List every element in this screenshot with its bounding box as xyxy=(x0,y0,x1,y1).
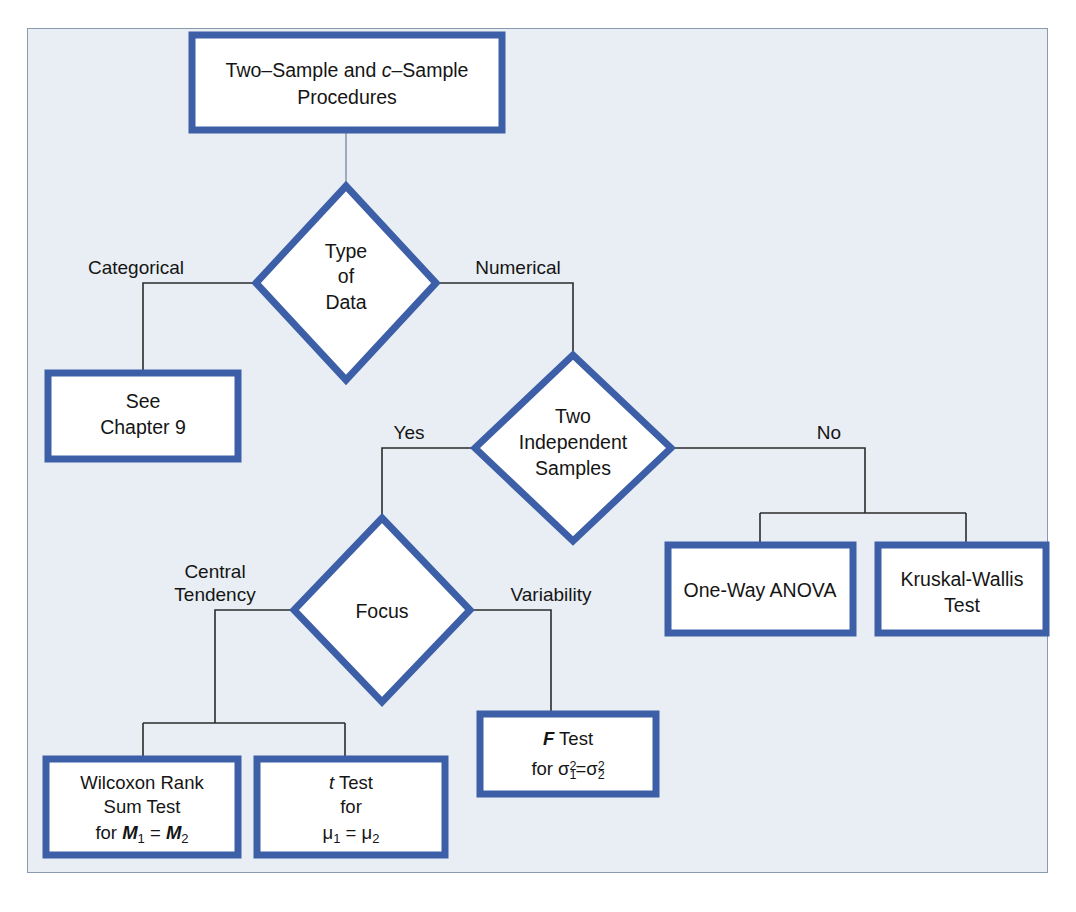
node-f-test-line1: F Test xyxy=(543,728,593,749)
node-wilcoxon-line2: Sum Test xyxy=(104,796,181,817)
node-type-of-data-line2: of xyxy=(338,265,355,287)
figure-page: Two–Sample and c–Sample Procedures Type … xyxy=(0,0,1076,912)
edge-label-no: No xyxy=(817,422,841,443)
node-one-way-anova[interactable]: One-Way ANOVA xyxy=(668,545,853,633)
connector-focus-variability xyxy=(470,610,551,712)
node-f-test[interactable]: F Test for σ12=σ22 xyxy=(480,714,656,794)
node-t-test-line1: t Test xyxy=(329,772,373,793)
node-title[interactable]: Two–Sample and c–Sample Procedures xyxy=(192,35,502,130)
node-title-line1: Two–Sample and c–Sample xyxy=(226,59,469,81)
edge-label-numerical: Numerical xyxy=(475,257,561,278)
node-see-chapter[interactable]: See Chapter 9 xyxy=(48,373,238,459)
node-focus-line1: Focus xyxy=(355,600,408,622)
edge-label-yes: Yes xyxy=(394,422,425,443)
node-one-way-anova-line1: One-Way ANOVA xyxy=(684,579,837,601)
node-two-independent-line3: Samples xyxy=(535,457,611,479)
node-see-chapter-line2: Chapter 9 xyxy=(100,416,186,438)
node-f-test-line2: for σ12=σ22 xyxy=(531,758,604,782)
node-two-independent-line2: Independent xyxy=(519,431,628,453)
node-t-test-line3: μ1 = μ2 xyxy=(323,822,380,846)
connector-two-no xyxy=(669,448,966,543)
edge-label-central-tendency-line2: Tendency xyxy=(174,584,256,605)
node-t-test-line2: for xyxy=(340,796,362,817)
connector-type-numerical xyxy=(434,283,573,358)
node-type-of-data-line1: Type xyxy=(325,240,367,262)
node-two-independent-samples[interactable]: Two Independent Samples xyxy=(475,355,671,541)
node-title-line2: Procedures xyxy=(297,86,397,108)
edge-label-variability: Variability xyxy=(511,584,592,605)
node-see-chapter-line1: See xyxy=(126,390,161,412)
node-wilcoxon[interactable]: Wilcoxon Rank Sum Test for M1 = M2 xyxy=(46,759,238,855)
node-two-independent-line1: Two xyxy=(555,405,591,427)
edge-label-central-tendency-line1: Central xyxy=(184,561,245,582)
node-wilcoxon-line1: Wilcoxon Rank xyxy=(80,772,204,793)
flowchart-canvas: Two–Sample and c–Sample Procedures Type … xyxy=(0,0,1076,912)
node-kruskal-wallis-line2: Test xyxy=(944,594,980,616)
node-t-test[interactable]: t Test for μ1 = μ2 xyxy=(257,759,445,855)
connector-type-categorical xyxy=(143,283,258,371)
node-focus[interactable]: Focus xyxy=(294,518,470,702)
node-type-of-data[interactable]: Type of Data xyxy=(256,186,436,380)
edge-label-categorical: Categorical xyxy=(88,257,184,278)
node-type-of-data-line3: Data xyxy=(325,291,366,313)
node-kruskal-wallis-line1: Kruskal-Wallis xyxy=(901,568,1024,590)
connector-two-yes xyxy=(382,448,477,520)
node-kruskal-wallis[interactable]: Kruskal-Wallis Test xyxy=(878,545,1046,633)
